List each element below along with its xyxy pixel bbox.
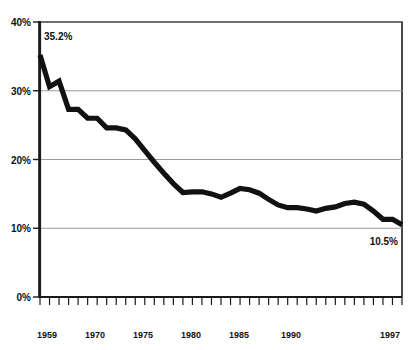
x-axis-label-1997: 1997 [380, 330, 400, 340]
annotation-end-value: 10.5% [370, 236, 398, 247]
annotation-start-value: 35.2% [44, 31, 72, 42]
x-axis-label-1980: 1980 [181, 330, 201, 340]
y-axis-label-10: 10% [11, 223, 31, 234]
x-axis-label-1959: 1959 [37, 330, 57, 340]
y-axis-label-40: 40% [11, 17, 31, 28]
x-axis-label-1985: 1985 [229, 330, 249, 340]
line-chart: 40% 30% 20% 10% 0% 1959 1970 1975 1980 1… [0, 0, 415, 350]
x-axis-label-1970: 1970 [85, 330, 105, 340]
y-axis-label-20: 20% [11, 155, 31, 166]
chart-container: 40% 30% 20% 10% 0% 1959 1970 1975 1980 1… [0, 0, 415, 350]
x-axis-label-1975: 1975 [133, 330, 153, 340]
x-axis-ticks [40, 298, 402, 305]
y-axis-label-30: 30% [11, 86, 31, 97]
x-axis-label-1990: 1990 [281, 330, 301, 340]
y-axis-label-0: 0% [17, 292, 32, 303]
data-series-line [40, 55, 402, 225]
